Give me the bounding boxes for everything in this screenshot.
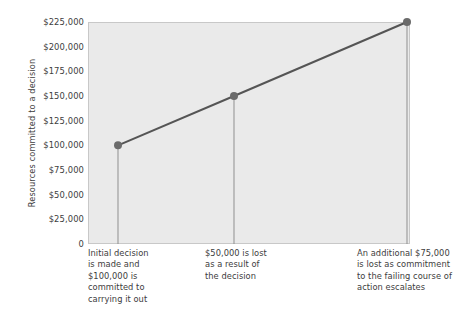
annotation-line: carrying it out <box>88 294 149 305</box>
escalation-of-commitment-chart: Resources committed to a decision $225,0… <box>0 0 475 318</box>
y-tick-label: $125,000 <box>0 116 84 126</box>
y-tick-label: $50,000 <box>0 190 84 200</box>
annotation-first-loss: $50,000 is lost as a result of the decis… <box>205 248 267 282</box>
y-tick-label: $100,000 <box>0 140 84 150</box>
y-tick-label: $225,000 <box>0 17 84 27</box>
annotation-initial-decision: Initial decision is made and $100,000 is… <box>88 248 149 305</box>
y-tick-label: $75,000 <box>0 165 84 175</box>
annotation-line: to the failing course of <box>357 271 452 282</box>
annotation-line: is made and <box>88 259 149 270</box>
annotation-line: is lost as commitment <box>357 259 452 270</box>
annotation-line: Initial decision <box>88 248 149 259</box>
annotation-line: as a result of <box>205 259 267 270</box>
y-tick-label: 0 <box>0 239 84 249</box>
annotation-line: $50,000 is lost <box>205 248 267 259</box>
data-point-marker <box>230 92 238 100</box>
annotation-line: action escalates <box>357 282 452 293</box>
y-tick-label: $175,000 <box>0 66 84 76</box>
data-point-marker <box>403 18 411 26</box>
annotation-line: the decision <box>205 271 267 282</box>
annotation-escalated-loss: An additional $75,000 is lost as commitm… <box>357 248 452 294</box>
annotation-line: An additional $75,000 <box>357 248 452 259</box>
y-tick-label: $200,000 <box>0 42 84 52</box>
trend-line <box>118 22 407 145</box>
annotation-line: $100,000 is <box>88 271 149 282</box>
y-axis-tick-labels: $225,000 $200,000 $175,000 $150,000 $125… <box>0 0 84 318</box>
annotation-line: committed to <box>88 282 149 293</box>
data-point-marker <box>114 141 122 149</box>
plot-graphics <box>88 22 410 244</box>
y-tick-label: $150,000 <box>0 91 84 101</box>
y-tick-label: $25,000 <box>0 214 84 224</box>
